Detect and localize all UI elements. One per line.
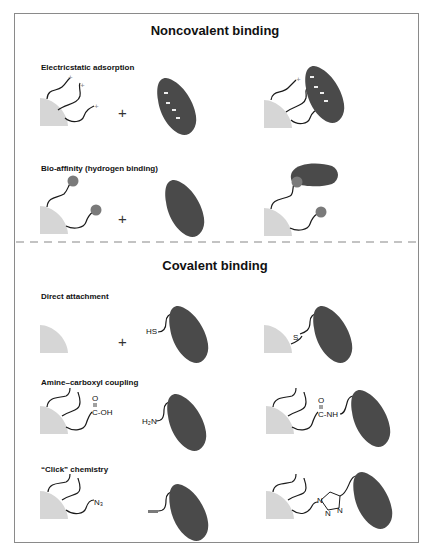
thiol-label: HS [146, 327, 157, 336]
protein-icon [165, 180, 204, 237]
amine-label: H₂N [142, 417, 157, 426]
svg-text:O: O [318, 396, 324, 405]
ligand-icon [91, 205, 102, 216]
azide-label: N₃ [94, 498, 103, 507]
svg-text:+: + [94, 102, 99, 111]
protein-icon [157, 78, 196, 135]
svg-text:+: + [68, 73, 73, 82]
row-click: N₃ N N N [40, 472, 392, 541]
svg-text:+: + [118, 333, 127, 350]
amide-label: C-NH [318, 410, 338, 419]
surface-icon [264, 100, 292, 128]
protein-icon [169, 484, 208, 541]
svg-text:+: + [80, 81, 85, 90]
plus-operator: + [118, 104, 127, 121]
svg-text:O: O [92, 394, 98, 403]
thioether-label: S [293, 333, 298, 342]
diagram-artwork: + + + + + + + + [0, 0, 430, 553]
protein-icon [169, 306, 208, 363]
row-bioaffinity: + [40, 164, 338, 238]
protein-icon [353, 472, 392, 529]
surface-icon [40, 98, 68, 126]
triazole-n1: N [317, 496, 323, 505]
svg-text:+: + [118, 210, 127, 227]
triazole-n3: N [337, 506, 343, 515]
triazole-n2: N [325, 509, 331, 518]
row-amine: O C-OH H₂N O C-NH [40, 388, 390, 451]
alkyne-icon [148, 510, 158, 513]
carboxyl-label: C-OH [92, 408, 113, 417]
protein-icon [351, 390, 390, 447]
row-direct: + HS S [40, 306, 352, 363]
protein-icon [313, 306, 352, 363]
row-electrostatic: + + + + + + + [40, 66, 344, 135]
ligand-icon [68, 176, 79, 187]
svg-text:+: + [296, 75, 301, 84]
protein-icon [167, 394, 206, 451]
ligand-icon [316, 207, 327, 218]
